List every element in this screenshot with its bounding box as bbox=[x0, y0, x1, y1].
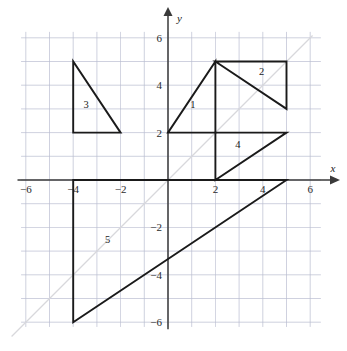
y-tick-label: 6 bbox=[157, 32, 163, 44]
shapes bbox=[73, 62, 286, 323]
shape-labels: 12345 bbox=[84, 66, 265, 245]
y-tick-label: 4 bbox=[157, 79, 163, 91]
y-tick-label: −2 bbox=[150, 221, 162, 233]
y-tick-label: −6 bbox=[150, 316, 162, 328]
triangle-label-3: 3 bbox=[84, 99, 89, 110]
x-tick-label: −6 bbox=[20, 183, 32, 195]
triangle-label-4: 4 bbox=[235, 139, 241, 150]
y-axis-label: y bbox=[176, 12, 182, 24]
triangle-label-1: 1 bbox=[190, 99, 195, 110]
triangle-label-2: 2 bbox=[259, 66, 264, 77]
y-tick-label: 2 bbox=[157, 127, 163, 139]
x-tick-label: 2 bbox=[213, 183, 219, 195]
x-axis-label: x bbox=[330, 162, 336, 174]
x-tick-label: 6 bbox=[307, 183, 313, 195]
x-tick-label: −2 bbox=[115, 183, 127, 195]
coordinate-plane-svg: −6−4−2246642−2−4−6 12345 xy bbox=[0, 0, 347, 351]
reference-line-y-equals-x bbox=[12, 35, 313, 336]
coordinate-plane-figure: −6−4−2246642−2−4−6 12345 xy bbox=[0, 0, 347, 351]
triangle-label-5: 5 bbox=[105, 234, 110, 245]
axes bbox=[18, 7, 340, 329]
